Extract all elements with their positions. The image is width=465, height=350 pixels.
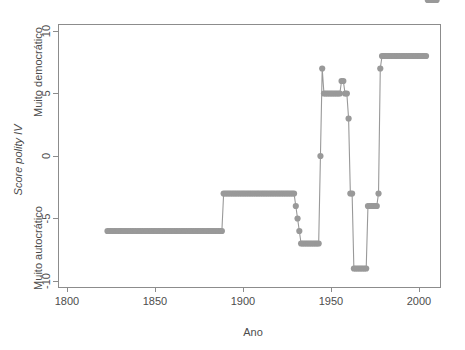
plot-frame: [58, 25, 440, 288]
data-point: [374, 203, 380, 209]
data-point: [337, 90, 343, 96]
y-tick-label: 0: [40, 153, 52, 159]
data-series: [104, 0, 439, 272]
x-tick-label: 1850: [143, 295, 167, 307]
data-point: [316, 240, 322, 246]
data-point: [291, 190, 297, 196]
data-point: [377, 65, 383, 71]
data-point: [317, 153, 323, 159]
y-axis-top-label: Muito democrático: [32, 27, 44, 117]
x-tick-label: 2000: [407, 295, 431, 307]
data-point: [319, 65, 325, 71]
data-point: [344, 90, 350, 96]
data-point: [349, 190, 355, 196]
data-point: [340, 78, 346, 84]
x-tick-label: 1800: [55, 295, 79, 307]
data-point: [363, 265, 369, 271]
data-point: [375, 190, 381, 196]
data-point: [293, 203, 299, 209]
chart-canvas: -10-50510 18001850190019502000 Ano Score…: [0, 0, 465, 350]
y-axis-bottom-label: Muito autocrático: [32, 206, 44, 290]
data-point: [423, 53, 429, 59]
x-tick-label: 1900: [231, 295, 255, 307]
data-point: [296, 228, 302, 234]
data-point: [294, 215, 300, 221]
x-tick-label: 1950: [319, 295, 343, 307]
y-axis-title: Score polity IV: [12, 123, 24, 196]
polity-score-chart: -10-50510 18001850190019502000 Ano Score…: [0, 0, 465, 350]
data-point: [346, 115, 352, 121]
x-axis-title: Ano: [243, 326, 263, 338]
data-point: [219, 228, 225, 234]
x-axis: 18001850190019502000: [55, 287, 431, 307]
